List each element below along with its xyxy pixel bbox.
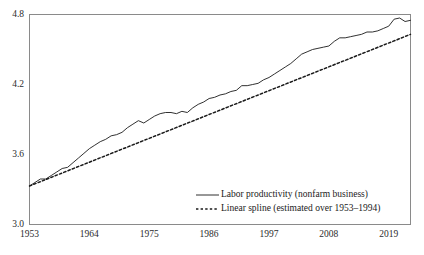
x-axis-tick-label: 2019: [369, 230, 409, 240]
y-axis-tick-label: 3.6: [0, 150, 24, 160]
y-axis-tick-label: 4.2: [0, 80, 24, 90]
x-axis-tick-label: 1975: [129, 230, 169, 240]
y-axis-tick-label: 4.8: [0, 10, 24, 20]
legend-label-1: Labor productivity (nonfarm business): [221, 190, 368, 200]
x-axis-tick-label: 2008: [309, 230, 349, 240]
x-axis-tick-label: 1997: [249, 230, 289, 240]
plot-canvas: [0, 0, 424, 255]
y-axis-tick-label: 3.0: [0, 220, 24, 230]
legend-label-2: Linear spline (estimated over 1953–1994): [221, 204, 380, 214]
x-axis-tick-label: 1964: [69, 230, 109, 240]
chart-figure: 3.03.64.24.81953196419751986199720082019…: [0, 0, 424, 255]
x-axis-tick-label: 1986: [189, 230, 229, 240]
series-line-1: [30, 18, 411, 186]
series-line-2: [30, 34, 411, 186]
x-axis-tick-label: 1953: [10, 230, 50, 240]
